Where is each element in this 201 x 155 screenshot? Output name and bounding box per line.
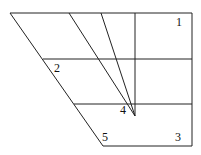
geometry-figure (0, 0, 201, 155)
diagonal-line-a (69, 13, 135, 116)
left-slant-edge (10, 13, 103, 146)
region-label-3: 3 (175, 131, 181, 143)
region-label-2: 2 (54, 62, 60, 74)
region-label-4: 4 (120, 104, 126, 116)
region-label-1: 1 (176, 16, 182, 28)
diagonal-line-b (101, 13, 135, 116)
region-label-5: 5 (102, 131, 108, 143)
